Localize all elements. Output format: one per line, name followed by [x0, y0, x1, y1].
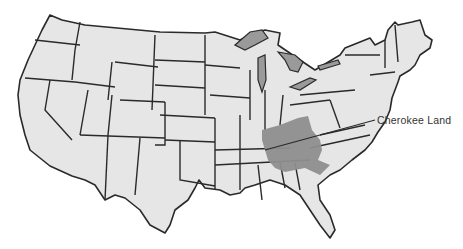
us-outline [18, 15, 432, 238]
cherokee-land-label: Cherokee Land [377, 114, 451, 126]
